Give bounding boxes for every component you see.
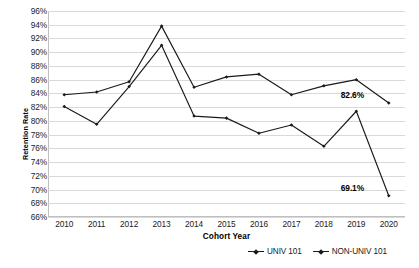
x-tick-label: 2010 [55,219,73,229]
x-tick-label: 2015 [217,219,235,229]
y-tick-label: 86% [31,75,47,85]
data-label: 69.1% [341,183,364,193]
y-tick-label: 76% [31,143,47,153]
x-tick-label: 2011 [88,219,105,229]
series-marker [257,131,261,135]
series-marker [225,75,229,79]
y-tick-label: 74% [31,157,47,167]
data-label: 82.6% [341,90,364,100]
series-marker [225,116,229,120]
y-tick-label: 96% [31,6,47,16]
x-tick-label: 2019 [347,219,365,229]
retention-rate-line-chart: Retention Rate 96%94%92%90%88%86%84%82%8… [0,0,419,268]
x-tick-label: 2012 [120,219,138,229]
y-axis-tick-labels: 96%94%92%90%88%86%84%82%80%78%76%74%72%7… [17,0,47,268]
legend-label: UNIV 101 [267,247,302,256]
series-line [64,45,389,195]
x-tick-label: 2018 [315,219,333,229]
legend-item[interactable]: UNIV 101 [248,247,302,256]
y-tick-label: 68% [31,198,47,208]
y-tick-label: 78% [31,130,47,140]
series-marker [322,84,326,88]
series-marker [192,114,196,118]
y-tick-label: 92% [31,33,47,43]
y-tick-label: 90% [31,47,47,57]
legend-label: NON-UNIV 101 [332,247,387,256]
x-axis-title: Cohort Year [48,232,405,241]
x-tick-label: 2017 [282,219,300,229]
gridline [48,217,405,218]
y-tick-label: 88% [31,61,47,71]
x-tick-label: 2014 [185,219,203,229]
y-tick-label: 94% [31,20,47,30]
y-tick-label: 80% [31,116,47,126]
series-marker [62,93,66,97]
legend-marker-icon [313,248,329,256]
series-marker [387,194,391,198]
series-marker [95,90,99,94]
y-tick-label: 82% [31,102,47,112]
legend-marker-icon [248,248,264,256]
x-axis-tick-labels: 2010201120122013201420152016201720182019… [48,219,405,233]
x-tick-label: 2020 [380,219,398,229]
y-tick-label: 72% [31,171,47,181]
chart-legend: UNIV 101NON-UNIV 101 [248,247,387,256]
y-tick-label: 70% [31,185,47,195]
legend-item[interactable]: NON-UNIV 101 [313,247,387,256]
x-tick-label: 2013 [153,219,171,229]
y-tick-label: 84% [31,88,47,98]
y-tick-label: 66% [31,212,47,222]
x-tick-label: 2016 [250,219,268,229]
